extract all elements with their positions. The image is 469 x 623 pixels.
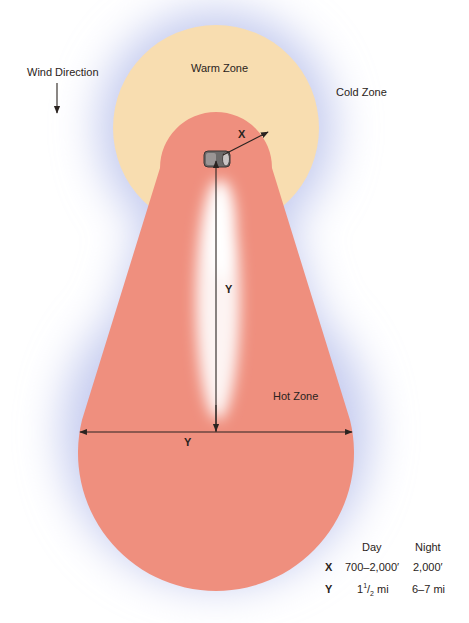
row-y-day: 11/2 mi [357, 582, 389, 597]
row-y-key: Y [325, 583, 332, 595]
row-y-day-unit: mi [374, 583, 389, 595]
header-night: Night [415, 541, 441, 553]
row-x-night: 2,000′ [413, 561, 443, 573]
row-y-day-num: 1 [363, 582, 367, 589]
row-y-night: 6–7 mi [412, 583, 445, 595]
row-x-key: X [325, 561, 332, 573]
distance-table: Day Night X 700–2,000′ 2,000′ Y 11/2 mi … [0, 0, 469, 623]
row-x-day: 700–2,000′ [345, 561, 399, 573]
header-day: Day [362, 541, 382, 553]
